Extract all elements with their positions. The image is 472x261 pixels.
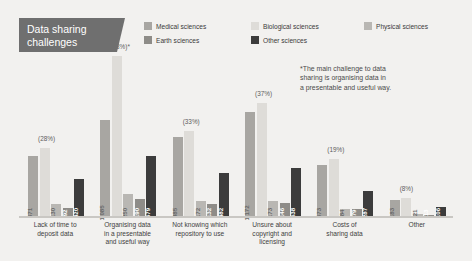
- x-axis-category-label: Not knowing whichrepository to use: [164, 221, 236, 238]
- bar-column[interactable]: 287: [363, 191, 373, 217]
- bar[interactable]: 885: [173, 137, 183, 216]
- bar[interactable]: 106: [436, 207, 446, 216]
- bar-column[interactable]: 130: [51, 204, 61, 216]
- x-axis-category-label: Unsure aboutcopyright andlicensing: [236, 221, 308, 247]
- bar-column[interactable]: 183: [390, 200, 400, 216]
- bar-value-label: 1,085: [98, 206, 105, 221]
- bar[interactable]: 146: [280, 203, 290, 216]
- legend-swatch-icon: [144, 36, 152, 44]
- legend-item[interactable]: Medical sciences: [144, 19, 251, 33]
- bar-column[interactable]: 538: [291, 168, 301, 216]
- bar[interactable]: 183: [390, 200, 400, 216]
- group-percent-label: (37%): [255, 90, 272, 97]
- category-label-line: licensing: [236, 238, 308, 247]
- group-percent-label: (33%): [183, 118, 200, 125]
- chart-figure: Data sharing challenges Medical sciences…: [0, 0, 472, 261]
- bar[interactable]: 1,085: [100, 120, 110, 216]
- annotation-line-1: *The main challenge to data: [300, 64, 450, 73]
- category-label-line: Unsure about: [236, 221, 308, 230]
- category-label-line: sharing data: [308, 230, 380, 239]
- category-label-line: Lack of time to: [19, 221, 91, 230]
- bar[interactable]: 130: [51, 204, 61, 216]
- bar-column[interactable]: 92: [63, 208, 73, 216]
- legend-label: Physical sciences: [376, 23, 428, 30]
- bar-column[interactable]: 1,172: [245, 112, 255, 216]
- category-label-line: in a presentable: [91, 230, 163, 239]
- bar-column[interactable]: 671: [28, 156, 38, 216]
- bar[interactable]: 287: [363, 191, 373, 217]
- bar[interactable]: [329, 159, 339, 216]
- bar-column[interactable]: [401, 198, 411, 216]
- chart-annotation: *The main challenge to data sharing is o…: [300, 64, 450, 92]
- legend-label: Biological sciences: [263, 23, 319, 30]
- legend-swatch-icon: [251, 22, 259, 30]
- bar[interactable]: [112, 56, 122, 216]
- bar[interactable]: [184, 131, 194, 216]
- bar[interactable]: 679: [146, 156, 156, 216]
- bar-column[interactable]: 146: [280, 203, 290, 216]
- bar-column[interactable]: 84: [340, 209, 350, 216]
- chart-title-line-1: Data sharing: [27, 23, 109, 36]
- bar-group: 1,085250190679(48%)*: [91, 56, 163, 216]
- x-axis-category-label: Lack of time todeposit data: [19, 221, 91, 238]
- bar[interactable]: 92: [63, 208, 73, 216]
- bar-value-label: 1,172: [243, 206, 250, 221]
- bar[interactable]: 482: [219, 173, 229, 216]
- bar-column[interactable]: 420: [74, 179, 84, 216]
- legend-label: Other sciences: [263, 37, 307, 44]
- bar[interactable]: 132: [207, 204, 217, 216]
- bar[interactable]: [40, 148, 50, 216]
- category-label-line: deposit data: [19, 230, 91, 239]
- legend-item[interactable]: Biological sciences: [251, 19, 364, 33]
- chart-title-line-2: challenges: [27, 36, 109, 49]
- bar[interactable]: [401, 198, 411, 216]
- bar[interactable]: 671: [28, 156, 38, 216]
- axis-baseline: [19, 216, 453, 218]
- bar-column[interactable]: 573: [317, 165, 327, 216]
- bar-column[interactable]: 250: [123, 194, 133, 216]
- chart-title-tag: Data sharing challenges: [19, 18, 117, 52]
- bar-column[interactable]: 173: [268, 201, 278, 216]
- bar[interactable]: [257, 103, 267, 216]
- category-label-line: Costs of: [308, 221, 380, 230]
- bar[interactable]: 84: [340, 209, 350, 216]
- category-label-line: Organising data: [91, 221, 163, 230]
- bar-column[interactable]: [257, 103, 267, 216]
- bar-column[interactable]: [329, 159, 339, 216]
- bar[interactable]: 538: [291, 168, 301, 216]
- bar[interactable]: 173: [268, 201, 278, 216]
- bar-column[interactable]: [40, 148, 50, 216]
- x-axis-category-label: Organising datain a presentableand usefu…: [91, 221, 163, 247]
- bar-column[interactable]: 679: [146, 156, 156, 216]
- group-percent-label: (28%): [38, 135, 55, 142]
- bar-column[interactable]: [184, 131, 194, 216]
- legend-swatch-icon: [251, 36, 259, 44]
- legend-item[interactable]: Physical sciences: [364, 19, 464, 33]
- bar-column[interactable]: 1,085: [100, 120, 110, 216]
- category-label-line: and useful way: [91, 238, 163, 247]
- bar-column[interactable]: 132: [207, 204, 217, 216]
- chart-legend: Medical sciencesBiological sciencesPhysi…: [144, 19, 464, 47]
- category-label-line: copyright and: [236, 230, 308, 239]
- x-axis-category-label: Other: [381, 221, 453, 230]
- bar-group: 1,172173146538(37%): [236, 56, 308, 216]
- bar[interactable]: 573: [317, 165, 327, 216]
- category-label-line: Other: [381, 221, 453, 230]
- category-label-line: repository to use: [164, 230, 236, 239]
- bar-column[interactable]: 106: [436, 207, 446, 216]
- bar-group: 885172132482(33%): [164, 56, 236, 216]
- bar[interactable]: 420: [74, 179, 84, 216]
- group-percent-label: (19%): [327, 146, 344, 153]
- annotation-line-3: a presentable and useful way.: [300, 83, 450, 92]
- category-label-line: Not knowing which: [164, 221, 236, 230]
- bar-column[interactable]: 885: [173, 137, 183, 216]
- bar-group: 67113092420(28%): [19, 56, 91, 216]
- x-axis-category-label: Costs ofsharing data: [308, 221, 380, 238]
- bar-column[interactable]: [112, 56, 122, 216]
- bar[interactable]: 250: [123, 194, 133, 216]
- bar-column[interactable]: 482: [219, 173, 229, 216]
- bar[interactable]: 1,172: [245, 112, 255, 216]
- legend-item[interactable]: Earth sciences: [144, 33, 251, 47]
- annotation-line-2: sharing is organising data in: [300, 73, 450, 82]
- legend-item[interactable]: Other sciences: [251, 33, 364, 47]
